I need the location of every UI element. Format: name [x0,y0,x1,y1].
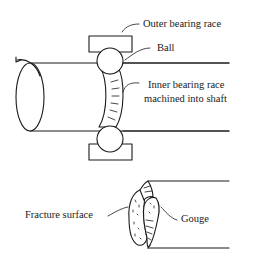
label-gouge: Gouge [181,213,209,224]
leader-inner-race [123,83,139,92]
leader-fracture-surface [108,207,128,216]
label-inner-race-2: machined into shaft [144,93,227,104]
fractured-shaft [129,181,229,248]
label-fracture-surface: Fracture surface [25,209,93,220]
leader-outer-race [122,24,139,32]
shaft-end-face [16,63,44,131]
label-outer-race: Outer bearing race [143,18,221,29]
ball-top [97,48,123,74]
bearing-shaft-diagram: Outer bearing race Ball Inner bearing ra… [0,0,253,258]
label-inner-race-1: Inner bearing race [148,79,225,90]
ball-bottom [97,126,123,152]
label-ball: Ball [157,42,175,53]
leader-gouge [161,207,177,220]
